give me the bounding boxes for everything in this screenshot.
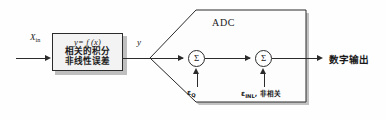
sigma-glyph-2: Σ: [261, 54, 266, 63]
output-label: 数字输出: [329, 52, 369, 66]
eps-q-label: εQ: [187, 88, 196, 97]
quantization-summer: Σ: [188, 50, 205, 67]
inter-stage-line: [205, 58, 250, 59]
eps-inl-label: εINL, 非相关: [241, 88, 281, 98]
intermediate-signal-line: [123, 58, 151, 59]
adc-label: ADC: [212, 17, 235, 28]
input-signal-symbol: X: [30, 32, 36, 42]
input-signal-label: Xin: [30, 32, 40, 42]
transfer-line-3: 非线性误差: [65, 57, 110, 66]
eps-q-subscript: Q: [191, 92, 195, 98]
sigma-glyph-1: Σ: [194, 54, 199, 63]
inl-summer: Σ: [255, 50, 272, 67]
arrow-right-icon-output: [317, 55, 323, 61]
arrow-up-icon-eps-q: [193, 68, 199, 74]
input-signal-subscript: in: [36, 36, 41, 43]
block-diagram-figure: Xin y= f (x) 相关的积分 非线性误差 y ADC Σ εQ Σ εI…: [0, 0, 386, 120]
eps-inl-note: , 非相关: [255, 90, 281, 98]
intermediate-signal-label: y: [137, 37, 141, 47]
arrow-up-icon-eps-inl: [260, 68, 266, 74]
eps-inl-line: [264, 73, 265, 87]
transfer-function-block: y= f (x) 相关的积分 非线性误差: [52, 33, 123, 71]
arrow-right-icon-input: [45, 55, 51, 61]
eps-q-line: [197, 73, 198, 87]
input-signal-line: [16, 58, 48, 59]
output-signal-line: [272, 58, 320, 59]
arrow-right-icon-sum2: [245, 55, 251, 61]
arrow-right-icon-sum1: [178, 55, 184, 61]
eps-inl-subscript: INL: [245, 93, 255, 99]
